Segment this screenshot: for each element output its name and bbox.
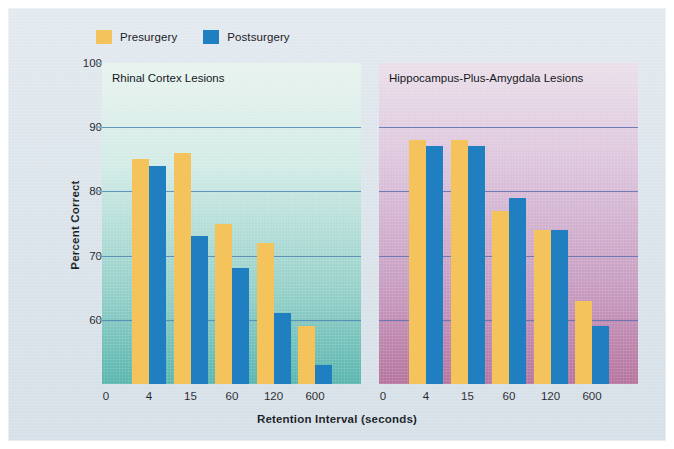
bar-hippocampus-post-4 bbox=[426, 146, 443, 384]
y-tick-mark-100 bbox=[95, 62, 102, 64]
bar-hippocampus-pre-120 bbox=[534, 230, 551, 384]
chart-paper: Presurgery Postsurgery Percent Correct 1… bbox=[8, 8, 666, 441]
x-axis-title: Retention Interval (seconds) bbox=[8, 413, 666, 425]
x-tick-label-right-4: 4 bbox=[423, 390, 429, 402]
bar-rhinal-pre-4 bbox=[132, 159, 149, 384]
bar-hippocampus-post-600 bbox=[592, 326, 609, 384]
bar-hippocampus-post-120 bbox=[551, 230, 568, 384]
legend-label-postsurgery: Postsurgery bbox=[227, 31, 289, 43]
x-tick-label-right-600: 600 bbox=[582, 390, 601, 402]
panel-right-bars bbox=[379, 63, 638, 384]
bar-hippocampus-post-60 bbox=[509, 198, 526, 384]
panel-left-title: Rhinal Cortex Lesions bbox=[112, 72, 225, 84]
bar-hippocampus-post-15 bbox=[468, 146, 485, 384]
legend-swatch-postsurgery bbox=[203, 30, 219, 44]
x-tick-label-left-60: 60 bbox=[226, 390, 239, 402]
x-tick-label-right-0: 0 bbox=[380, 390, 386, 402]
x-tick-label-left-15: 15 bbox=[184, 390, 197, 402]
panel-right-title: Hippocampus-Plus-Amygdala Lesions bbox=[389, 72, 583, 84]
x-tick-label-right-15: 15 bbox=[461, 390, 474, 402]
y-tick-mark-60 bbox=[95, 319, 102, 321]
bar-rhinal-pre-120 bbox=[257, 243, 274, 384]
bar-hippocampus-pre-600 bbox=[575, 301, 592, 384]
x-tick-label-left-120: 120 bbox=[264, 390, 283, 402]
bar-rhinal-post-4 bbox=[149, 166, 166, 384]
x-tick-label-left-600: 600 bbox=[305, 390, 324, 402]
bar-rhinal-post-600 bbox=[315, 365, 332, 384]
legend-entry-presurgery: Presurgery bbox=[96, 30, 177, 44]
panel-left-bars bbox=[102, 63, 361, 384]
bar-rhinal-post-60 bbox=[232, 268, 249, 384]
legend-label-presurgery: Presurgery bbox=[120, 31, 177, 43]
x-tick-label-left-4: 4 bbox=[146, 390, 152, 402]
bar-rhinal-post-120 bbox=[274, 313, 291, 384]
bar-hippocampus-pre-60 bbox=[492, 211, 509, 384]
bar-rhinal-pre-15 bbox=[174, 153, 191, 384]
bar-hippocampus-pre-15 bbox=[451, 140, 468, 384]
chart-figure: Presurgery Postsurgery Percent Correct 1… bbox=[0, 0, 674, 449]
x-tick-label-right-60: 60 bbox=[503, 390, 516, 402]
legend-swatch-presurgery bbox=[96, 30, 112, 44]
bar-rhinal-post-15 bbox=[191, 236, 208, 384]
y-tick-mark-90 bbox=[95, 126, 102, 128]
legend-entry-postsurgery: Postsurgery bbox=[203, 30, 289, 44]
x-tick-label-right-120: 120 bbox=[541, 390, 560, 402]
bar-hippocampus-pre-4 bbox=[409, 140, 426, 384]
y-axis: 10090807060 bbox=[54, 8, 102, 449]
panel-rhinal-cortex-lesions: Rhinal Cortex Lesions bbox=[102, 63, 361, 384]
bar-rhinal-pre-60 bbox=[215, 224, 232, 385]
bar-rhinal-pre-600 bbox=[298, 326, 315, 384]
y-tick-mark-70 bbox=[95, 255, 102, 257]
x-tick-label-left-0: 0 bbox=[103, 390, 109, 402]
chart-legend: Presurgery Postsurgery bbox=[96, 30, 290, 44]
panel-hippocampus-plus-amygdala-lesions: Hippocampus-Plus-Amygdala Lesions bbox=[379, 63, 638, 384]
y-tick-mark-80 bbox=[95, 191, 102, 193]
